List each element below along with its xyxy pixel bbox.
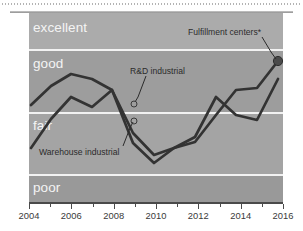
x-axis-label-2010: 2010 xyxy=(146,211,167,220)
leader-line-rd-industrial xyxy=(135,76,146,102)
x-tick-major-2006 xyxy=(71,204,72,209)
chart-figure: excellent good fair poor Fulfillment cen… xyxy=(0,0,303,231)
x-tick-minor-2009 xyxy=(135,204,136,207)
x-tick-minor-2011 xyxy=(177,204,178,207)
x-tick-major-2012 xyxy=(198,204,199,209)
anchor-dot-rd-industrial xyxy=(131,101,137,107)
x-axis-label-2012: 2012 xyxy=(188,211,209,220)
x-tick-major-2010 xyxy=(156,204,157,209)
x-tick-major-2014 xyxy=(241,204,242,209)
annotation-warehouse-industrial: Warehouse industrial xyxy=(39,148,119,157)
leader-line-fulfillment-centers xyxy=(262,37,276,59)
x-tick-minor-2005 xyxy=(50,204,51,207)
x-axis-label-2006: 2006 xyxy=(61,211,82,220)
x-axis-label-2014: 2014 xyxy=(230,211,251,220)
anchor-dot-warehouse-industrial xyxy=(131,118,137,124)
x-axis-label-2008: 2008 xyxy=(103,211,124,220)
x-tick-major-2016 xyxy=(283,204,284,209)
x-axis-label-2016: 2016 xyxy=(273,211,294,220)
x-tick-minor-2013 xyxy=(220,204,221,207)
x-tick-minor-2007 xyxy=(93,204,94,207)
x-tick-major-2008 xyxy=(114,204,115,209)
x-tick-minor-2015 xyxy=(262,204,263,207)
annotation-fulfillment-centers: Fulfillment centers* xyxy=(188,28,261,37)
annotation-rd-industrial: R&D industrial xyxy=(130,67,185,76)
x-axis-label-2004: 2004 xyxy=(19,211,40,220)
leader-line-warehouse-industrial xyxy=(123,122,133,146)
x-tick-major-2004 xyxy=(29,204,30,209)
